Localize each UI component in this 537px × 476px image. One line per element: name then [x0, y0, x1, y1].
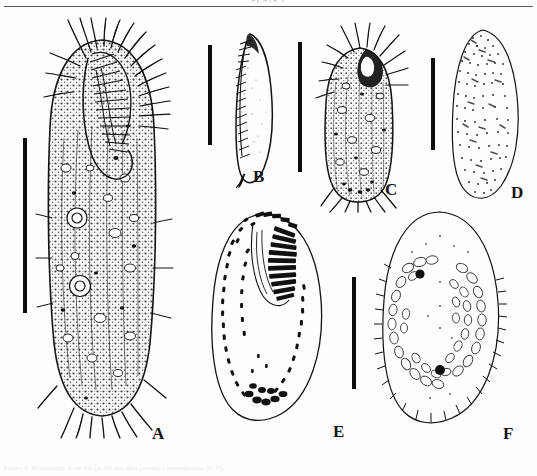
header-rule — [4, 6, 533, 7]
panel-label-b: B — [253, 167, 264, 187]
panel-e-drawing — [205, 208, 335, 426]
panel-d — [443, 24, 535, 204]
panel-f — [368, 206, 518, 428]
figure-plate: PLATE 1 — [0, 0, 537, 476]
panel-label-a: A — [152, 424, 164, 444]
scale-bar-c — [298, 42, 302, 172]
panel-b — [218, 28, 296, 188]
panel-e — [205, 208, 335, 426]
panel-label-f: F — [503, 424, 513, 444]
panel-a — [30, 18, 180, 438]
running-head: PLATE 1 — [0, 0, 537, 2]
panel-f-drawing — [368, 206, 518, 428]
panel-label-e: E — [333, 422, 344, 442]
panel-b-drawing — [218, 28, 296, 188]
panel-label-d: D — [511, 183, 523, 203]
scale-bar-e — [352, 277, 356, 389]
scale-bar-a — [23, 138, 27, 313]
scale-bar-b — [208, 45, 212, 145]
figure-caption: Figure 1. Morphology from life (A-D) and… — [4, 464, 404, 472]
panel-a-drawing — [30, 18, 180, 438]
panel-label-c: C — [385, 180, 397, 200]
panel-d-drawing — [443, 24, 535, 204]
scale-bar-d — [431, 58, 435, 150]
